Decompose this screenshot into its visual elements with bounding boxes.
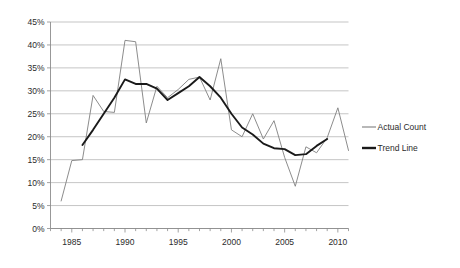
y-axis-tick-label: 45% [27,17,44,27]
y-axis-tick-label: 20% [27,132,44,142]
chart-legend: Actual CountTrend Line [362,122,427,153]
y-axis-tick-label: 25% [27,109,44,119]
y-axis-tick-label: 35% [27,63,44,73]
y-axis-tick-label: 15% [27,155,44,165]
x-axis-tick-label: 1985 [62,237,81,247]
chart-container: 0%5%10%15%20%25%30%35%40%45% 19851990199… [0,0,460,268]
y-axis-tick-label: 0% [32,224,45,234]
x-axis-tick-label: 2000 [222,237,241,247]
series-line-actual-count [61,40,348,201]
y-axis-tick-label: 10% [27,178,44,188]
legend-item-actual-count[interactable]: Actual Count [362,122,427,132]
x-axis-tick-label: 2010 [328,237,347,247]
y-axis-tick-label: 40% [27,40,44,50]
chart-series [61,40,348,201]
chart-axes [47,22,349,233]
legend-item-trend-line[interactable]: Trend Line [362,143,418,153]
x-axis-tick-label: 2005 [275,237,294,247]
x-axis-tick-label: 1990 [116,237,135,247]
legend-label: Actual Count [378,122,427,132]
y-axis-tick-label: 30% [27,86,44,96]
y-axis-tick-label: 5% [32,201,45,211]
line-chart: 0%5%10%15%20%25%30%35%40%45% 19851990199… [0,0,460,268]
x-axis-tick-label: 1995 [169,237,188,247]
legend-label: Trend Line [378,143,419,153]
y-axis-tick-labels: 0%5%10%15%20%25%30%35%40%45% [27,17,44,234]
x-axis-tick-labels: 198519901995200020052010 [62,237,347,247]
